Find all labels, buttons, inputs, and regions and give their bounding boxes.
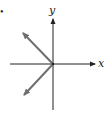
upper-left-vector: [23, 33, 53, 64]
x-axis-label: x: [98, 57, 105, 70]
origin-point: [52, 63, 54, 65]
lower-left-vector: [24, 64, 53, 95]
item-bullet: •: [0, 6, 4, 17]
vector-diagram: • y x: [0, 0, 110, 115]
y-axis-label: y: [48, 4, 56, 17]
